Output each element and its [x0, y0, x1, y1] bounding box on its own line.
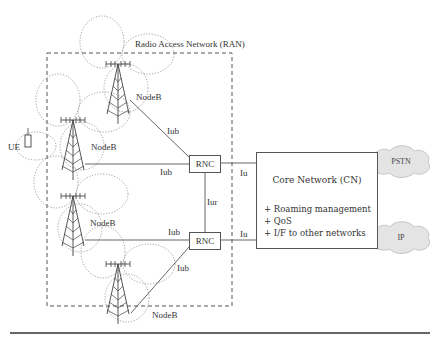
- ran-boundary: [47, 53, 232, 306]
- cn-function-item: + Roaming management: [264, 203, 371, 215]
- core-network-functions: + Roaming management + QoS + I/F to othe…: [264, 203, 371, 239]
- nodeb-tower-icon: [106, 261, 130, 324]
- nodeb-label: NodeB: [90, 219, 116, 228]
- cn-function-item: + QoS: [264, 215, 371, 227]
- pstn-label: PSTN: [376, 158, 426, 166]
- rnc-box: RNC: [189, 155, 221, 173]
- core-network-title: Core Network (CN): [257, 175, 377, 185]
- iub-label: Iub: [167, 127, 179, 136]
- cn-function-item: + I/F to other networks: [264, 227, 371, 239]
- iub-label: Iub: [168, 228, 180, 237]
- iur-label: Iur: [207, 198, 218, 207]
- nodeb-tower-icon: [106, 61, 130, 124]
- ue-label: UE: [8, 143, 20, 152]
- nodeb-label: NodeB: [91, 143, 117, 152]
- iub-label: Iub: [177, 264, 189, 273]
- nodeb-label: NodeB: [136, 93, 162, 102]
- ue-device-icon: [25, 135, 31, 147]
- nodeb-label: NodeB: [152, 311, 178, 320]
- iub-label: Iub: [160, 168, 172, 177]
- nodeb-tower-icon: [61, 193, 85, 256]
- iu-label: Iu: [240, 230, 248, 239]
- ran-label: Radio Access Network (RAN): [135, 40, 245, 49]
- iu-label: Iu: [240, 169, 248, 178]
- ip-label: IP: [376, 234, 426, 242]
- nodeb-tower-icon: [61, 117, 85, 180]
- coverage-lobes: [16, 16, 175, 322]
- rnc-box: RNC: [189, 232, 221, 250]
- core-network-box: Core Network (CN) + Roaming management +…: [256, 152, 378, 249]
